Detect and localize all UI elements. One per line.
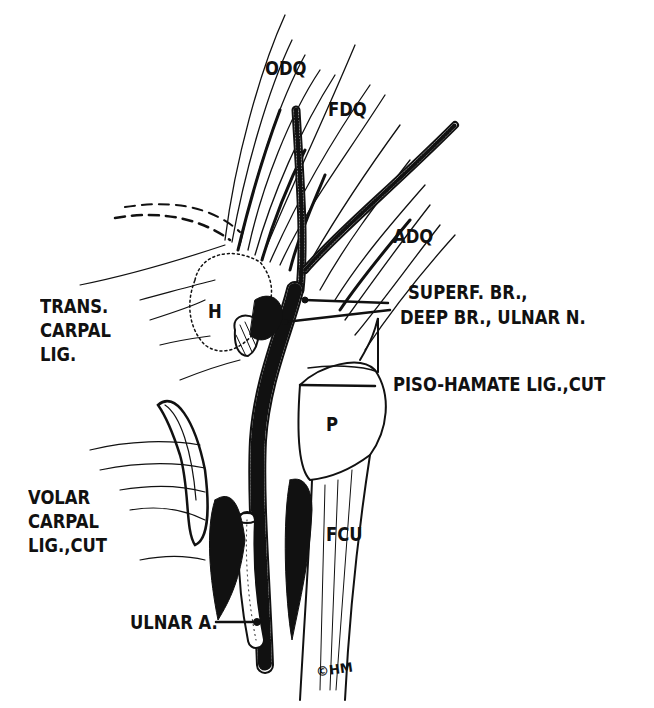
- label-odq: ODQ: [265, 56, 306, 80]
- label-line: VOLAR: [28, 485, 107, 509]
- label-line: CARPAL: [40, 318, 111, 342]
- label-line: TRANS.: [40, 294, 111, 318]
- label-line: LIG.: [40, 342, 111, 366]
- label-ulnar-artery: ULNAR A.: [130, 610, 218, 634]
- label-superf-br: SUPERF. BR.,: [408, 280, 528, 304]
- label-line: LIG.,CUT: [28, 533, 107, 557]
- label-trans-carpal-lig: TRANS. CARPAL LIG.: [40, 294, 111, 366]
- label-adq: ADQ: [393, 224, 433, 248]
- label-pisiform: P: [326, 412, 338, 436]
- label-fdq: FDQ: [328, 97, 367, 121]
- label-volar-carpal-lig: VOLAR CARPAL LIG.,CUT: [28, 485, 107, 557]
- pisiform-bone: [298, 363, 385, 480]
- label-hamate: H: [208, 299, 222, 323]
- label-fcu: FCU: [326, 522, 363, 546]
- volar-carpal-ligament-flap: [158, 401, 208, 545]
- label-line: CARPAL: [28, 509, 107, 533]
- label-piso-hamate-lig: PISO-HAMATE LIG.,CUT: [393, 372, 605, 396]
- label-deep-br-ulnar-n: DEEP BR., ULNAR N.: [400, 305, 586, 329]
